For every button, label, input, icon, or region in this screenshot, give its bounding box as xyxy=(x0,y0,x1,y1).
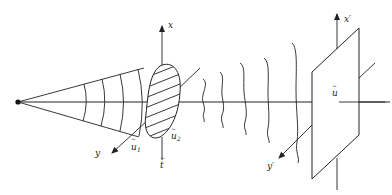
svg-text:t: t xyxy=(160,160,164,170)
label-x: x xyxy=(168,20,173,30)
observation-plane xyxy=(312,28,359,179)
svg-text:2: 2 xyxy=(176,135,181,142)
label-y-prime: y′ xyxy=(266,161,274,171)
optics-diagram: x y ~ u 1 ~ u 2 ~ t x′ y′ ~ u xyxy=(0,0,392,195)
y-axis xyxy=(112,120,148,153)
svg-text:u: u xyxy=(332,88,338,98)
label-u1: ~ u 1 xyxy=(131,135,141,153)
svg-text:1: 1 xyxy=(137,146,141,153)
label-t: ~ t xyxy=(160,154,165,170)
diagram-canvas: x y ~ u 1 ~ u 2 ~ t x′ y′ ~ u xyxy=(0,0,392,195)
hatched-aperture xyxy=(140,60,190,150)
svg-text:~: ~ xyxy=(131,135,136,142)
label-x-prime: x′ xyxy=(344,14,351,24)
plane-diagonal xyxy=(359,63,375,78)
propagating-wavefronts xyxy=(203,43,299,163)
label-y: y xyxy=(94,148,101,158)
label-u2: ~ u 2 xyxy=(171,125,181,142)
y-prime-axis xyxy=(279,125,312,158)
